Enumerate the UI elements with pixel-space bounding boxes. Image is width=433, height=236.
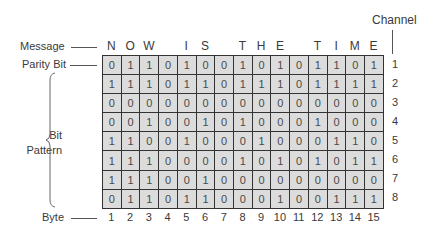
bit-cell: 0 [346, 94, 365, 113]
byte-number: 2 [121, 211, 140, 223]
channel-number: 8 [388, 191, 402, 203]
channel-label: Channel [372, 13, 417, 27]
byte-number: 11 [289, 211, 308, 223]
parity-bit-cell: 0 [290, 56, 309, 75]
bit-cell: 0 [103, 113, 122, 132]
parity-bit-cell: 0 [253, 56, 272, 75]
bit-cell: 1 [140, 151, 159, 170]
bit-cell: 1 [234, 151, 253, 170]
byte-number: 5 [177, 211, 196, 223]
bit-cell: 0 [271, 94, 290, 113]
message-letter: E [271, 39, 290, 53]
bit-cell: 1 [103, 75, 122, 94]
bit-cell: 0 [159, 151, 178, 170]
bit-grid: 0110100101011011110110111011110000000000… [102, 55, 384, 209]
bit-cell: 1 [197, 171, 216, 190]
bit-cell: 1 [346, 190, 365, 209]
bit-cell: 0 [234, 171, 253, 190]
bit-cell: 0 [215, 171, 234, 190]
bit-cell: 0 [253, 171, 272, 190]
bit-cell: 0 [365, 113, 384, 132]
bit-pattern-brace-icon [42, 72, 56, 208]
message-letter: E [364, 39, 383, 53]
bit-cell: 0 [178, 171, 197, 190]
parity-bit-cell: 0 [346, 56, 365, 75]
bit-cell: 0 [253, 190, 272, 209]
parity-bit-cell: 1 [271, 56, 290, 75]
bit-cell: 0 [234, 94, 253, 113]
bit-cell: 0 [290, 94, 309, 113]
message-label: Message [20, 40, 65, 52]
bit-cell: 0 [159, 75, 178, 94]
bit-cell: 0 [290, 132, 309, 151]
bit-cell: 1 [140, 171, 159, 190]
bit-cell: 1 [328, 190, 347, 209]
bit-cell: 1 [197, 190, 216, 209]
bit-cell: 1 [197, 113, 216, 132]
bit-cell: 0 [253, 151, 272, 170]
parity-bit-cell: 0 [215, 56, 234, 75]
bit-cell: 0 [234, 132, 253, 151]
bit-cell: 0 [159, 113, 178, 132]
byte-number: 3 [140, 211, 159, 223]
bit-cell: 0 [309, 171, 328, 190]
bit-cell: 1 [328, 75, 347, 94]
byte-number: 15 [364, 211, 383, 223]
bit-cell: 1 [103, 132, 122, 151]
bit-cell: 0 [215, 190, 234, 209]
message-letter: N [102, 39, 121, 53]
byte-number: 8 [233, 211, 252, 223]
bit-cell: 1 [122, 132, 141, 151]
bit-cell: 0 [140, 132, 159, 151]
parity-bit-cell: 1 [140, 56, 159, 75]
bit-cell: 1 [309, 113, 328, 132]
message-letter: O [121, 39, 140, 53]
bit-cell: 0 [365, 171, 384, 190]
parity-bit-cell: 1 [178, 56, 197, 75]
bit-cell: 0 [253, 113, 272, 132]
message-letter: S [196, 39, 215, 53]
bit-cell: 0 [309, 94, 328, 113]
byte-label: Byte [42, 211, 64, 223]
bit-cell: 1 [271, 75, 290, 94]
parity-bit-leader-line [70, 65, 97, 66]
channel-number: 5 [388, 134, 402, 146]
bit-cell: 0 [197, 94, 216, 113]
bit-cell: 1 [140, 113, 159, 132]
bit-cell: 0 [290, 113, 309, 132]
message-letter: I [327, 39, 346, 53]
byte-number: 10 [271, 211, 290, 223]
channel-leader-line [392, 30, 393, 54]
bit-cell: 0 [159, 132, 178, 151]
bit-cell: 1 [234, 113, 253, 132]
message-letter: H [252, 39, 271, 53]
parity-bit-cell: 0 [197, 56, 216, 75]
bit-cell: 1 [346, 151, 365, 170]
channel-number: 4 [388, 115, 402, 127]
byte-number: 1 [102, 211, 121, 223]
parity-bit-cell: 0 [159, 56, 178, 75]
bit-cell: 1 [271, 190, 290, 209]
bit-cell: 1 [178, 190, 197, 209]
bit-cell: 0 [234, 190, 253, 209]
byte-number: 6 [196, 211, 215, 223]
channel-number: 2 [388, 77, 402, 89]
bit-cell: 0 [178, 151, 197, 170]
message-letter: I [177, 39, 196, 53]
channel-number: 3 [388, 96, 402, 108]
bit-cell: 1 [122, 151, 141, 170]
parity-bit-cell: 1 [234, 56, 253, 75]
bit-cell: 0 [197, 151, 216, 170]
parity-bit-cell: 1 [328, 56, 347, 75]
byte-number: 13 [327, 211, 346, 223]
bit-cell: 0 [365, 132, 384, 151]
bit-cell: 1 [140, 75, 159, 94]
bit-cell: 0 [365, 94, 384, 113]
bit-cell: 1 [365, 151, 384, 170]
bit-cell: 0 [103, 190, 122, 209]
bit-cell: 0 [140, 94, 159, 113]
byte-number: 4 [158, 211, 177, 223]
bit-cell: 0 [290, 190, 309, 209]
channel-number: 6 [388, 153, 402, 165]
bit-cell: 1 [178, 132, 197, 151]
